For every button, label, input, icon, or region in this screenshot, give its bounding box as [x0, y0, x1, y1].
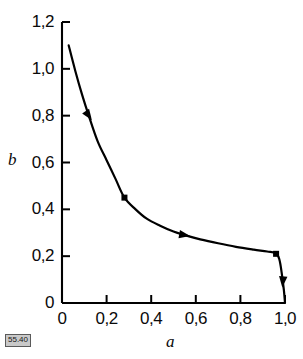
x-tick-label: 0,8: [215, 309, 265, 329]
y-tick-label: 0,8: [8, 106, 54, 126]
direction-arrow-marker: [278, 276, 287, 288]
data-point-marker: [121, 195, 127, 201]
x-tick-label: 0,6: [171, 309, 221, 329]
axes: [62, 22, 285, 303]
y-tick-label: 1,0: [8, 59, 54, 79]
direction-arrow-marker: [179, 230, 191, 240]
y-tick-label: 1,2: [8, 12, 54, 32]
x-axis-title: a: [166, 332, 175, 352]
y-tick-label: 0,4: [8, 199, 54, 219]
x-tick-label: 0,4: [126, 309, 176, 329]
data-point-marker: [273, 251, 279, 257]
figure-container: 00,20,40,60,81,01,2 00,20,40,60,81,0 b a…: [0, 0, 303, 359]
x-tick-label: 0,2: [82, 309, 132, 329]
direction-arrow-marker: [82, 109, 95, 123]
x-tick-label: 1,0: [260, 309, 303, 329]
y-axis-ticks: [62, 22, 70, 256]
figure-number-tag: 55.40: [5, 334, 31, 347]
data-point-markers: [82, 109, 287, 288]
x-axis-ticks: [62, 295, 285, 303]
y-tick-label: 0,2: [8, 246, 54, 266]
y-axis-title: b: [8, 150, 17, 170]
data-series-curve: [69, 45, 285, 303]
x-tick-label: 0: [37, 309, 87, 329]
